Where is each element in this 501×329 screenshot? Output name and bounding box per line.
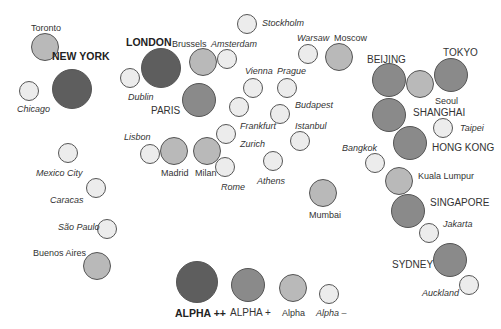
city-circle-madrid — [160, 137, 188, 165]
city-circle-chicago — [19, 81, 39, 101]
legend-circle-alpha — [279, 274, 307, 302]
city-circle-frankfurt — [229, 97, 249, 117]
city-label-singapore: SINGAPORE — [430, 198, 489, 208]
city-label-buenos-aires: Buenos Aires — [33, 248, 86, 258]
city-circle-stockholm — [237, 14, 257, 34]
city-circle-istanbul — [290, 131, 310, 151]
city-circle-taipei — [433, 118, 453, 138]
city-label-sao-paulo: São Paulo — [58, 222, 100, 232]
city-label-warsaw: Warsaw — [297, 33, 329, 43]
legend-circle-alpha — [231, 268, 265, 302]
city-label-toronto: Toronto — [31, 23, 61, 33]
city-circle-sao-paulo — [97, 219, 117, 239]
city-label-istanbul: Istanbul — [295, 121, 327, 131]
city-label-beijing: BEIJING — [367, 55, 406, 65]
legend-circle-alpha — [176, 261, 218, 303]
city-circle-lisbon — [140, 144, 160, 164]
city-circle-sydney — [433, 243, 467, 277]
city-circle-london — [141, 48, 181, 88]
city-circle-dublin — [120, 68, 140, 88]
city-label-seoul: Seoul — [435, 96, 458, 106]
city-label-prague: Prague — [277, 66, 306, 76]
city-label-hong-kong: HONG KONG — [432, 143, 494, 153]
city-label-mumbai: Mumbai — [309, 210, 341, 220]
city-circle-jakarta — [419, 223, 439, 243]
city-circle-zurich — [216, 124, 236, 144]
city-circle-buenos-aires — [83, 252, 111, 280]
city-network-diagram: TorontoNEW YORKChicagoLONDONBrusselsAmst… — [0, 0, 501, 329]
city-label-kuala-lumpur: Kuala Lumpur — [418, 171, 474, 181]
city-label-shanghai: SHANGHAI — [413, 108, 465, 118]
legend-circle-alpha — [319, 284, 339, 304]
city-label-moscow: Moscow — [334, 33, 367, 43]
city-circle-amsterdam — [217, 49, 237, 69]
city-circle-singapore — [391, 194, 425, 228]
legend-label-alpha: Alpha — [282, 308, 305, 318]
city-label-athens: Athens — [257, 176, 285, 186]
city-label-rome: Rome — [221, 182, 245, 192]
city-circle-seoul — [406, 70, 434, 98]
city-label-vienna: Vienna — [245, 66, 273, 76]
city-label-lisbon: Lisbon — [124, 132, 151, 142]
city-label-milan: Milan — [195, 168, 217, 178]
city-label-paris: PARIS — [151, 106, 180, 116]
city-circle-vienna — [243, 78, 263, 98]
city-label-chicago: Chicago — [17, 104, 50, 114]
city-circle-bangkok — [365, 153, 385, 173]
city-label-budapest: Budapest — [295, 100, 333, 110]
city-circle-rome — [215, 157, 235, 177]
city-label-brussels: Brussels — [172, 39, 207, 49]
city-circle-hong-kong — [393, 126, 427, 160]
city-circle-paris — [182, 83, 216, 117]
city-circle-kuala-lumpur — [385, 167, 413, 195]
city-label-taipei: Taipei — [460, 123, 484, 133]
city-circle-athens — [263, 151, 283, 171]
city-circle-beijing — [372, 63, 406, 97]
city-circle-brussels — [189, 48, 217, 76]
city-label-tokyo: TOKYO — [443, 48, 478, 58]
city-circle-auckland — [459, 275, 479, 295]
legend-label-alpha: Alpha – — [316, 308, 347, 318]
city-circle-mumbai — [309, 179, 337, 207]
city-label-frankfurt: Frankfurt — [240, 121, 276, 131]
city-circle-tokyo — [434, 58, 468, 92]
city-label-jakarta: Jakarta — [443, 219, 473, 229]
city-circle-mexico-city — [58, 143, 78, 163]
city-circle-caracas — [86, 178, 106, 198]
city-label-sydney: SYDNEY — [392, 260, 433, 270]
city-label-dublin: Dublin — [128, 92, 154, 102]
city-label-bangkok: Bangkok — [342, 143, 377, 153]
city-circle-shanghai — [372, 98, 406, 132]
city-circle-prague — [277, 78, 297, 98]
city-label-madrid: Madrid — [161, 168, 189, 178]
city-circle-warsaw — [298, 44, 318, 64]
city-label-stockholm: Stockholm — [262, 18, 304, 28]
city-label-mexico-city: Mexico City — [36, 168, 83, 178]
city-circle-moscow — [325, 43, 353, 71]
city-label-amsterdam: Amsterdam — [211, 39, 257, 49]
legend-label-alpha: ALPHA ++ — [175, 308, 226, 318]
city-label-new-york: NEW YORK — [52, 51, 110, 61]
legend-label-alpha: ALPHA + — [230, 308, 271, 318]
city-label-zurich: Zurich — [240, 139, 265, 149]
city-label-caracas: Caracas — [50, 195, 84, 205]
city-label-auckland: Auckland — [422, 288, 459, 298]
city-circle-new-york — [52, 69, 92, 109]
city-label-london: LONDON — [126, 37, 172, 47]
